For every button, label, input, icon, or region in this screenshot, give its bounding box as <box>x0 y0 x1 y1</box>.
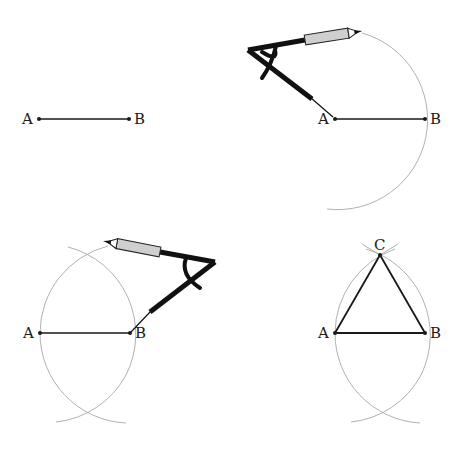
compass-icon <box>102 236 215 332</box>
label-b: B <box>134 110 145 128</box>
point-a <box>37 117 41 121</box>
point-b <box>423 117 427 121</box>
label-c: C <box>374 236 385 254</box>
arc-centered-b <box>40 246 126 423</box>
label-a: A <box>317 324 329 342</box>
point-b <box>423 331 427 335</box>
panel-2-first-arc: A B <box>248 26 441 210</box>
panel-1-segment: A B <box>21 110 145 128</box>
point-b <box>127 117 131 121</box>
arc-centered-a <box>327 33 428 210</box>
label-b: B <box>430 110 441 128</box>
compass-construction-diagram: A B A B <box>0 0 464 449</box>
arc-centered-a <box>56 247 136 422</box>
point-a <box>333 331 337 335</box>
triangle-abc <box>335 255 425 333</box>
point-a <box>38 331 42 335</box>
compass-icon <box>248 26 363 117</box>
label-a: A <box>22 324 34 342</box>
panel-4-triangle: A B C <box>317 236 441 423</box>
label-a: A <box>21 110 33 128</box>
point-a <box>333 117 337 121</box>
label-b: B <box>430 324 441 342</box>
panel-3-second-arc: A B <box>22 236 215 423</box>
